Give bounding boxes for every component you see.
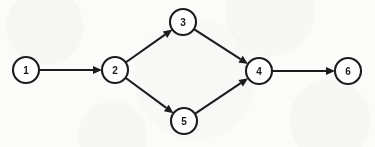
graph-node-1[interactable]: 1 <box>13 57 39 83</box>
arrowhead-icon <box>326 67 335 75</box>
arrowhead-icon <box>93 66 102 74</box>
directed-graph: 123456 <box>0 0 375 147</box>
graph-node-3[interactable]: 3 <box>170 9 196 35</box>
arrowhead-icon <box>163 30 173 38</box>
node-label: 1 <box>23 65 29 76</box>
graph-node-6[interactable]: 6 <box>335 58 361 84</box>
graph-edge-2-to-3[interactable] <box>126 30 173 63</box>
graph-edge-3-to-4[interactable] <box>194 29 248 64</box>
node-label: 5 <box>181 116 187 127</box>
edge-line <box>195 83 241 114</box>
arrowhead-icon <box>238 78 248 86</box>
graph-edge-5-to-4[interactable] <box>195 78 248 114</box>
graph-edge-1-to-2[interactable] <box>39 66 102 74</box>
node-label: 2 <box>112 65 118 76</box>
diagram-canvas: 123456 <box>0 0 375 147</box>
edge-line <box>125 78 166 108</box>
node-label: 6 <box>345 66 351 77</box>
graph-node-2[interactable]: 2 <box>102 57 128 83</box>
graph-edge-2-to-5[interactable] <box>125 78 173 114</box>
graph-node-4[interactable]: 4 <box>246 58 272 84</box>
node-label: 3 <box>180 17 186 28</box>
edge-line <box>126 35 165 63</box>
graph-edge-4-to-6[interactable] <box>272 67 335 75</box>
edge-layer <box>39 29 335 114</box>
graph-node-5[interactable]: 5 <box>171 108 197 134</box>
node-label: 4 <box>256 66 262 77</box>
edge-line <box>194 29 241 59</box>
